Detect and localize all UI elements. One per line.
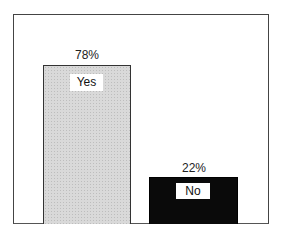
bar-value-yes: 78%	[57, 48, 117, 62]
bar-label-yes: Yes	[70, 74, 103, 91]
bar-label-no: No	[176, 183, 210, 199]
bar-value-no: 22%	[164, 161, 224, 175]
